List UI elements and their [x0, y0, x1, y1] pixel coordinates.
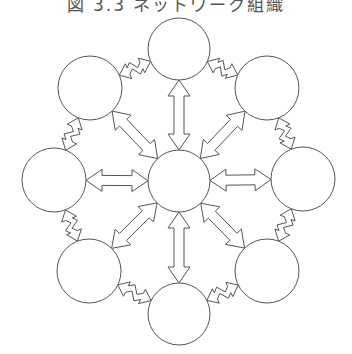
ring-arrow-bottom-left-left	[62, 210, 82, 241]
ring-arrow-right-bottom-right	[275, 209, 295, 241]
radial-arrow-top-left	[112, 111, 158, 159]
node-right	[271, 147, 335, 211]
radial-arrow-top	[168, 80, 190, 150]
network-organization-diagram	[0, 0, 352, 354]
node-top-left	[58, 56, 122, 120]
center-node	[148, 150, 210, 212]
ring-arrow-top-left-top	[119, 58, 150, 78]
node-left	[22, 148, 86, 212]
ring-arrow-bottom-bottom-left	[118, 282, 151, 304]
radial-arrow-bottom-left	[112, 203, 158, 249]
radial-arrow-right	[210, 169, 271, 191]
node-bottom-left	[57, 239, 121, 303]
radial-arrow-left	[86, 169, 148, 191]
node-bottom-right	[235, 239, 299, 303]
node-top	[148, 18, 210, 80]
ring-arrow-bottom-right-bottom	[207, 282, 238, 303]
ring-arrow-top-right-right	[275, 118, 295, 149]
radial-arrow-bottom-right	[201, 203, 245, 248]
radial-arrow-top-right	[200, 111, 245, 158]
ring-arrow-top-top-right	[207, 58, 237, 78]
ring-arrow-left-top-left	[62, 118, 82, 150]
node-top-right	[235, 56, 299, 120]
node-bottom	[148, 283, 210, 345]
radial-arrow-bottom	[168, 212, 190, 283]
